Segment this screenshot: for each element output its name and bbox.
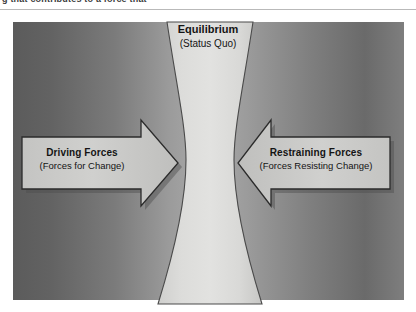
force-arrows-svg xyxy=(0,0,416,312)
diagram-page: g that contributes to a force that xyxy=(0,0,416,312)
force-arrows xyxy=(0,0,416,312)
restraining-forces-arrow[interactable] xyxy=(238,120,390,206)
